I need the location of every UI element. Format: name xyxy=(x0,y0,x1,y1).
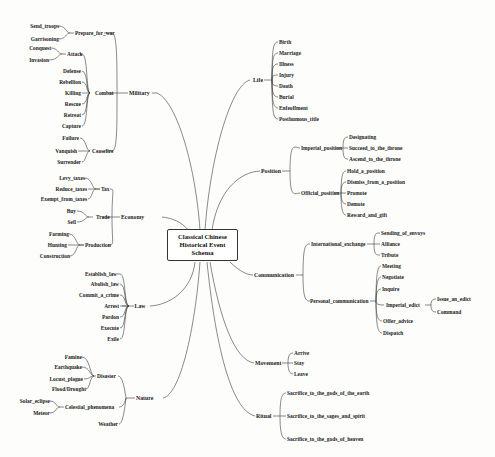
node-send-troops[interactable]: Send_troops xyxy=(30,23,59,30)
node-leave[interactable]: Leave xyxy=(294,371,308,378)
node-illness[interactable]: Illness xyxy=(279,61,294,68)
node-prepare-for-war[interactable]: Prepare_for_war xyxy=(75,30,115,37)
node-economy[interactable]: Economy xyxy=(121,214,144,221)
node-meteor[interactable]: Meteor xyxy=(33,410,50,417)
node-arrive[interactable]: Arrive xyxy=(294,350,309,357)
node-issue-an-edict[interactable]: Issue_an_edict xyxy=(437,296,471,303)
node-reward-and-gift[interactable]: Reward_and_gift xyxy=(347,212,387,219)
node-exempt-from-taxes[interactable]: Exempt_from_taxes xyxy=(41,196,87,203)
node-retreat[interactable]: Retreat xyxy=(64,112,81,119)
node-famine[interactable]: Famine xyxy=(65,354,82,361)
node-dismiss-from-a-position[interactable]: Dismiss_from_a_position xyxy=(347,179,405,186)
root-node[interactable]: Classical Chinese Historical Event Schem… xyxy=(167,229,238,261)
node-hold-a-position[interactable]: Hold_a_position xyxy=(347,168,385,175)
node-demote[interactable]: Demote xyxy=(347,201,365,208)
node-official-position[interactable]: Official_position xyxy=(301,190,339,197)
node-invasion[interactable]: Invasion xyxy=(29,57,49,64)
node-defense[interactable]: Defense xyxy=(63,68,81,75)
node-alliance[interactable]: Alliance xyxy=(381,241,400,248)
node-posthumous-title[interactable]: Posthumous_title xyxy=(279,116,319,123)
node-command[interactable]: Command xyxy=(437,309,461,316)
node-ceasefire[interactable]: Ceasefire xyxy=(92,148,113,155)
root-title-line-3: Schema xyxy=(178,249,227,257)
node-personal-communication[interactable]: Personal_communication xyxy=(310,298,368,305)
node-reduce-taxes[interactable]: Reduce_taxes xyxy=(56,186,87,193)
node-life[interactable]: Life xyxy=(253,77,263,84)
node-ascend-to-the-throne[interactable]: Ascend_to_the_throne xyxy=(349,156,401,163)
node-position[interactable]: Position xyxy=(261,168,281,175)
node-inquire[interactable]: Inquire xyxy=(382,286,399,293)
node-trade[interactable]: Trade xyxy=(96,214,110,221)
node-stay[interactable]: Stay xyxy=(294,360,304,367)
node-burial[interactable]: Burial xyxy=(279,94,294,101)
node-nature[interactable]: Nature xyxy=(136,395,153,402)
node-celestial-phenomena[interactable]: Celestial_phenomena xyxy=(65,404,114,411)
node-movement[interactable]: Movement xyxy=(255,360,281,367)
node-commit-a-crime[interactable]: Commit_a_crime xyxy=(79,292,119,299)
node-ritual[interactable]: Ritual xyxy=(256,413,271,420)
node-sell[interactable]: Sell xyxy=(68,219,76,226)
node-marriage[interactable]: Marriage xyxy=(279,50,301,57)
node-vanquish[interactable]: Vanquish xyxy=(55,148,77,155)
node-military[interactable]: Military xyxy=(129,90,150,97)
node-imperial-edict[interactable]: Imperial_edict xyxy=(386,302,420,309)
node-flood-drought[interactable]: Flood/Drought xyxy=(52,386,86,393)
node-international-exchange[interactable]: International_exchange xyxy=(311,241,366,248)
node-injury[interactable]: Injury xyxy=(279,72,294,79)
node-succeed-to-the-throne[interactable]: Succeed_to_the_throne xyxy=(349,145,403,152)
node-tax[interactable]: Tax xyxy=(101,186,110,193)
node-production[interactable]: Production xyxy=(85,242,111,249)
mind-map-canvas: Classical Chinese Historical Event Schem… xyxy=(0,0,495,457)
node-death[interactable]: Death xyxy=(279,83,293,90)
node-law[interactable]: Law xyxy=(135,303,146,310)
node-abolish-law[interactable]: Abolish_law xyxy=(91,281,119,288)
node-surrender[interactable]: Surrender xyxy=(57,159,81,166)
node-exile[interactable]: Exile xyxy=(107,336,119,343)
node-killing[interactable]: Killing xyxy=(65,90,81,97)
node-solar-eclipse[interactable]: Solar_eclipse xyxy=(20,398,50,405)
node-tribute[interactable]: Tribute xyxy=(381,252,398,259)
node-conquest[interactable]: Conquest xyxy=(29,45,51,52)
node-sacrifice-gods-earth[interactable]: Sacrifice_to_the_gods_of_the_earth xyxy=(287,390,369,397)
node-locust-plague[interactable]: Locust_plague xyxy=(49,376,83,383)
node-sending-of-envoys[interactable]: Sending_of_envoys xyxy=(381,230,425,237)
node-rescue[interactable]: Rescue xyxy=(65,101,81,108)
node-sacrifice-sages-spirit[interactable]: Sacrifice_to_the_sages_and_spirit xyxy=(287,413,365,420)
node-garrisoning[interactable]: Garrisoning xyxy=(31,36,59,43)
node-negotiate[interactable]: Negotiate xyxy=(382,274,404,281)
node-hunting[interactable]: Hunting xyxy=(48,242,67,249)
node-attack[interactable]: Attack xyxy=(67,51,83,58)
node-offer-advice[interactable]: Offer_advice xyxy=(383,318,413,325)
node-execute[interactable]: Execute xyxy=(101,325,119,332)
node-designating[interactable]: Designating xyxy=(349,134,376,141)
node-capture[interactable]: Capture xyxy=(62,123,81,130)
node-earthquake[interactable]: Earthquake xyxy=(54,364,82,371)
node-weather[interactable]: Weather xyxy=(98,421,118,428)
node-sacrifice-gods-heaven[interactable]: Sacrifice_to_the_gods_of_heaven xyxy=(287,436,363,443)
node-combat[interactable]: Combat xyxy=(95,90,114,97)
node-arrest[interactable]: Arrest xyxy=(104,303,119,310)
node-failure[interactable]: Failure xyxy=(62,135,79,142)
node-imperial-position[interactable]: Imperial_position xyxy=(301,145,342,152)
node-rebellion[interactable]: Rebellion xyxy=(59,79,81,86)
node-dispatch[interactable]: Dispatch xyxy=(383,330,403,337)
node-promote[interactable]: Promote xyxy=(347,190,367,197)
node-levy-taxes[interactable]: Levy_taxes xyxy=(59,175,85,182)
node-buy[interactable]: Buy xyxy=(67,208,76,215)
root-title-line-1: Classical Chinese xyxy=(178,233,227,241)
node-establish-law[interactable]: Establish_law xyxy=(85,271,117,278)
root-title-line-2: Historical Event xyxy=(178,241,227,249)
node-meeting[interactable]: Meeting xyxy=(382,263,401,270)
node-enfeoffment[interactable]: Enfeoffment xyxy=(279,105,308,112)
node-communication[interactable]: Communication xyxy=(254,272,294,279)
node-construction[interactable]: Construction xyxy=(40,253,70,260)
node-birth[interactable]: Birth xyxy=(279,39,291,46)
node-pardon[interactable]: Pardon xyxy=(102,314,119,321)
node-farming[interactable]: Farming xyxy=(49,231,69,238)
node-disaster[interactable]: Disaster xyxy=(97,373,116,380)
